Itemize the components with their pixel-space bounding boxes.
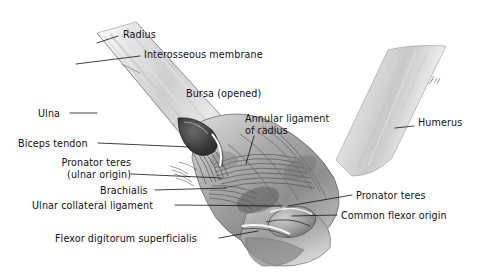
- label-annular-ligament-line2: of radius: [245, 125, 329, 137]
- label-common-flexor-origin: Common flexor origin: [341, 210, 447, 222]
- label-biceps-tendon: Biceps tendon: [18, 138, 88, 150]
- label-flexor-digitorum-superficialis: Flexor digitorum superficialis: [55, 233, 197, 245]
- anatomical-figure: Radius Interosseous membrane Bursa (open…: [0, 0, 483, 275]
- label-brachialis: Brachialis: [100, 185, 148, 197]
- humerus-shaft: [336, 46, 446, 177]
- label-pronator-teres: Pronator teres: [356, 190, 426, 202]
- label-pronator-teres-ulnar-origin: Pronator teres (ulnar origin): [21, 157, 131, 180]
- label-ulnar-collateral-ligament: Ulnar collateral ligament: [32, 200, 153, 212]
- label-annular-ligament-of-radius: Annular ligament of radius: [245, 113, 329, 136]
- label-interosseous-membrane: Interosseous membrane: [144, 49, 263, 61]
- pronator-teres-ulnar-origin-fibers: [170, 162, 197, 186]
- label-ulna: Ulna: [38, 108, 60, 120]
- label-humerus: Humerus: [418, 117, 462, 129]
- label-pronator-teres-ulnar-origin-line2: (ulnar origin): [21, 169, 131, 181]
- label-bursa-opened: Bursa (opened): [186, 88, 261, 100]
- label-radius: Radius: [123, 29, 156, 41]
- label-pronator-teres-ulnar-origin-line1: Pronator teres: [61, 157, 131, 168]
- label-annular-ligament-line1: Annular ligament: [245, 113, 329, 124]
- leader-biceps-tendon: [98, 143, 190, 147]
